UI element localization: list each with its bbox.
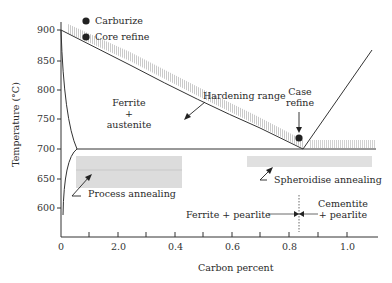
case-refine-label: Case refine <box>283 86 317 108</box>
alpha-boundary <box>61 30 77 149</box>
y-tick-900: 900 <box>37 24 55 35</box>
hardening-range-label: Hardening range <box>203 90 286 101</box>
spheroidise-annealing-band <box>247 156 372 167</box>
y-axis-label: Temperature (°C) <box>10 82 21 167</box>
x-tick-0-4: 0.4 <box>168 241 183 252</box>
case-refine-arrow-icon <box>296 127 302 133</box>
core-refine-label: Core refine <box>95 31 149 42</box>
x-axis-label: Carbon percent <box>198 262 274 273</box>
core-refine-dot <box>82 33 89 40</box>
x-tick-1-0: 1.0 <box>340 241 355 252</box>
process-annealing-label: Process annealing <box>88 188 176 199</box>
y-ticks <box>57 30 61 208</box>
x-tick-0-2: 2.0 <box>111 241 126 252</box>
y-tick-750: 750 <box>37 113 55 124</box>
x-tick-0-6: 0.6 <box>225 241 240 252</box>
spheroidise-upper-band <box>310 140 375 148</box>
y-tick-800: 800 <box>37 84 55 95</box>
cementite-pearlite-label: Cementite + pearlite <box>318 198 368 220</box>
y-tick-650: 650 <box>37 173 55 184</box>
y-tick-700: 700 <box>37 143 55 154</box>
y-tick-600: 600 <box>37 202 55 213</box>
solvus-line <box>63 149 77 215</box>
left-arrow-icon <box>294 211 299 217</box>
ferrite-pearlite-label: Ferrite + pearlite <box>186 209 271 220</box>
carburize-dot <box>82 17 89 24</box>
case-refine-dot <box>295 134 302 141</box>
right-arrow-icon <box>299 211 304 217</box>
x-tick-0-8: 0.8 <box>282 241 297 252</box>
ferrite-austenite-label: Ferrite + austenite <box>104 97 154 130</box>
y-tick-850: 850 <box>37 55 55 66</box>
x-ticks <box>89 232 347 237</box>
spheroidise-annealing-label: Spheroidise annealing <box>274 174 382 185</box>
process-annealing-band <box>76 156 182 188</box>
carburize-label: Carburize <box>95 15 143 26</box>
x-tick-0: 0 <box>58 241 64 252</box>
